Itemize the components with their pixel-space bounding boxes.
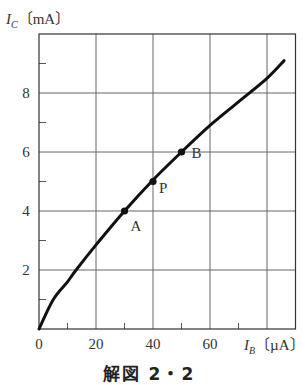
- x-axis-title: IB〔µA〕: [244, 333, 305, 356]
- y-tick-label: 2: [22, 262, 30, 278]
- point-p-marker: [149, 178, 156, 185]
- point-b-marker: [178, 148, 185, 155]
- x-tick-label: 40: [146, 336, 161, 352]
- point-p-label: P: [159, 180, 167, 196]
- y-axis-unit: 〔mA〕: [18, 11, 71, 27]
- operating-points: APB: [121, 145, 202, 234]
- y-tick-label: 4: [22, 203, 30, 219]
- figure-caption: 解図 2・2: [0, 360, 298, 385]
- y-tick-label: 6: [22, 144, 30, 160]
- point-a-label: A: [131, 218, 142, 234]
- point-a-marker: [121, 207, 128, 214]
- point-b-label: B: [192, 145, 202, 161]
- x-tick-label: 60: [203, 336, 218, 352]
- y-axis-subscript: C: [11, 19, 18, 30]
- x-tick-label: 20: [89, 336, 104, 352]
- y-tick-label: 8: [22, 85, 30, 101]
- y-axis-title: IC〔mA〕: [6, 7, 70, 30]
- x-tick-label: 0: [35, 336, 43, 352]
- x-axis-unit: 〔µA〕: [255, 337, 304, 353]
